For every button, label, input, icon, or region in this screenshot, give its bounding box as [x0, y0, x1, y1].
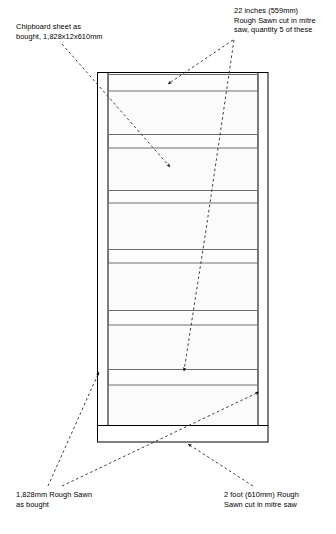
annotation-rail-length-line-2: as bought	[16, 500, 92, 510]
annotation-crosspiece-line-2: Rough Sawn cut in mitre	[234, 16, 316, 26]
bottom-rail	[98, 426, 269, 443]
leader-rail-cut-bottom	[188, 444, 253, 486]
annotation-crosspiece-line-3: saw, quantity 5 of these	[234, 25, 316, 35]
crosspiece-6	[109, 370, 258, 386]
annotation-chipboard-line-1: Chipboard sheet as	[16, 22, 103, 32]
crosspiece-5	[109, 311, 258, 326]
annotation-crosspiece: 22 inches (559mm) Rough Sawn cut in mitr…	[234, 6, 316, 35]
annotation-rail-length-line-1: 1,828mm Rough Sawn	[16, 490, 92, 500]
annotation-rail-cut-line-2: Sawn cut in mitre saw	[224, 500, 299, 510]
crosspiece-2	[109, 135, 258, 149]
annotation-rail-length: 1,828mm Rough Sawn as bought	[16, 490, 92, 509]
annotation-chipboard-sheet: Chipboard sheet as bought, 1,828x12x610m…	[16, 22, 103, 41]
annotation-rail-cut: 2 foot (610mm) Rough Sawn cut in mitre s…	[224, 490, 299, 509]
diagram-canvas: Chipboard sheet as bought, 1,828x12x610m…	[0, 0, 336, 534]
crosspiece-1	[109, 75, 258, 92]
leader-rail-length	[48, 372, 99, 486]
left-vertical-rail	[98, 73, 109, 426]
cutting-plan-drawing	[0, 0, 336, 534]
annotation-crosspiece-line-1: 22 inches (559mm)	[234, 6, 316, 16]
crosspiece-3	[109, 191, 258, 204]
annotation-rail-cut-line-1: 2 foot (610mm) Rough	[224, 490, 299, 500]
annotation-chipboard-line-2: bought, 1,828x12x610mm	[16, 32, 103, 42]
crosspiece-4	[109, 250, 258, 264]
right-vertical-rail	[258, 73, 268, 426]
